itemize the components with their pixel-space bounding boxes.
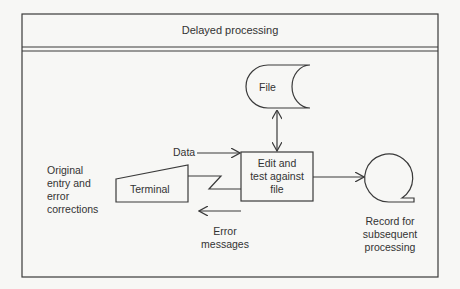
original-entry-line: corrections bbox=[47, 203, 98, 216]
original-entry-label: Original entry and error corrections bbox=[47, 164, 98, 216]
edit-label-line: Edit and bbox=[241, 157, 313, 170]
comm-link bbox=[188, 176, 241, 189]
record-line: processing bbox=[355, 241, 425, 254]
record-line: subsequent bbox=[355, 228, 425, 241]
original-entry-line: entry and bbox=[47, 177, 98, 190]
file-label: File bbox=[259, 81, 276, 94]
error-messages-line: Error bbox=[195, 225, 255, 238]
data-label: Data bbox=[173, 146, 195, 159]
original-entry-line: Original bbox=[47, 164, 98, 177]
tape-shape bbox=[365, 154, 414, 202]
diagram-title: Delayed processing bbox=[22, 24, 438, 37]
error-messages-line: messages bbox=[195, 238, 255, 251]
original-entry-line: error bbox=[47, 190, 98, 203]
error-messages-label: Error messages bbox=[195, 225, 255, 251]
edit-label: Edit and test against file bbox=[241, 157, 313, 196]
record-label: Record for subsequent processing bbox=[355, 215, 425, 254]
file-shape bbox=[246, 65, 310, 108]
edit-label-line: test against bbox=[241, 170, 313, 183]
edit-label-line: file bbox=[241, 183, 313, 196]
record-line: Record for bbox=[355, 215, 425, 228]
terminal-label: Terminal bbox=[130, 183, 170, 196]
